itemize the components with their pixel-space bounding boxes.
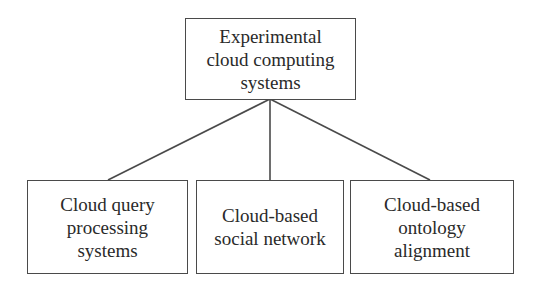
- child-1-line-3: systems: [60, 239, 154, 262]
- child-3-line-2: ontology: [384, 216, 480, 239]
- child-node-cloud-query-processing-systems: Cloud query processing systems: [27, 180, 188, 274]
- child-1-line-2: processing: [60, 216, 154, 239]
- root-node-line-2: cloud computing: [206, 48, 334, 71]
- child-3-line-1: Cloud-based: [384, 193, 480, 216]
- edge-root-to-query-processing: [108, 99, 270, 180]
- root-node-experimental-cloud-computing-systems: Experimental cloud computing systems: [185, 18, 356, 100]
- child-2-line-2: social network: [214, 227, 325, 250]
- child-3-line-3: alignment: [384, 239, 480, 262]
- child-1-line-1: Cloud query: [60, 193, 154, 216]
- child-node-cloud-based-ontology-alignment: Cloud-based ontology alignment: [350, 180, 514, 274]
- child-2-line-1: Cloud-based: [214, 204, 325, 227]
- root-node-line-3: systems: [206, 71, 334, 94]
- root-node-line-1: Experimental: [206, 25, 334, 48]
- child-node-cloud-based-social-network: Cloud-based social network: [196, 180, 344, 274]
- edge-root-to-ontology-alignment: [270, 99, 430, 180]
